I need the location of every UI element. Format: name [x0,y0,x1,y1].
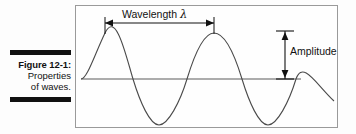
caption-line-of-waves: of waves. [0,81,71,92]
wavelength-word: Wavelength [122,8,177,20]
wavelength-arrowhead-left [105,20,113,27]
wave-diagram-svg [76,6,337,127]
figure-screenshot: Figure 12-1: Properties of waves. [0,0,356,134]
amplitude-arrowhead-bottom [282,70,289,78]
caption-rule-top [10,50,71,55]
wavelength-arrowhead-right [206,20,214,27]
figure-number-label: Figure 12-1: [0,59,71,70]
figure-caption-text: Figure 12-1: Properties of waves. [0,59,72,93]
wavelength-annotation-label: Wavelength λ [122,7,187,21]
figure-caption-block: Figure 12-1: Properties of waves. [0,50,72,102]
sine-wave-curve [81,27,334,125]
caption-line-properties: Properties [0,70,71,81]
caption-rule-bottom [10,97,71,102]
figure-border-box [75,5,338,128]
amplitude-arrowhead-top [282,32,289,40]
lambda-symbol: λ [180,7,187,21]
amplitude-annotation-label: Amplitude [290,45,337,57]
